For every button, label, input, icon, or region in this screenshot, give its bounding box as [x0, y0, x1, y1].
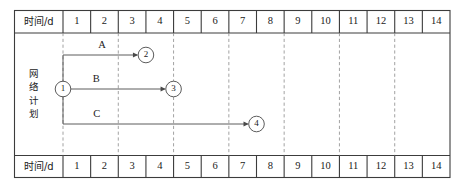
- node-1-label: 1: [61, 83, 66, 93]
- footer-day-8: 8: [268, 160, 273, 171]
- activity-c-label: C: [93, 108, 100, 119]
- footer-day-13: 13: [403, 160, 414, 171]
- node-2-label: 2: [144, 49, 149, 59]
- activity-a-arrowhead: [133, 52, 138, 57]
- header-day-1: 1: [74, 15, 79, 26]
- header-day-11: 11: [348, 15, 358, 26]
- node-3: 3: [166, 81, 182, 97]
- activity-arrows: ABC: [63, 39, 249, 127]
- header-day-8: 8: [268, 15, 273, 26]
- plan-title-char-1: 络: [29, 81, 39, 92]
- header-day-3: 3: [129, 15, 134, 26]
- header-day-13: 13: [403, 15, 414, 26]
- activity-b-label: B: [93, 73, 100, 84]
- network-plan-diagram: 时间/d1234567891011121314时间/d1234567891011…: [0, 0, 459, 183]
- footer-day-7: 7: [240, 160, 245, 171]
- activity-b-arrowhead: [161, 86, 166, 91]
- grid-layer: 时间/d1234567891011121314时间/d1234567891011…: [15, 11, 451, 178]
- footer-day-14: 14: [431, 160, 442, 171]
- node-2: 2: [138, 47, 154, 63]
- footer-day-1: 1: [74, 160, 79, 171]
- node-1: 1: [55, 81, 71, 97]
- activity-c-arrowhead: [244, 121, 249, 126]
- footer-day-5: 5: [185, 160, 190, 171]
- node-3-label: 3: [171, 83, 176, 93]
- header-day-14: 14: [431, 15, 442, 26]
- header-day-10: 10: [320, 15, 331, 26]
- header-day-7: 7: [240, 15, 245, 26]
- header-day-2: 2: [102, 15, 107, 26]
- header-day-6: 6: [212, 15, 217, 26]
- header-day-4: 4: [157, 15, 163, 26]
- text-labels: 网络计划: [29, 68, 39, 120]
- plan-title-char-2: 计: [29, 95, 39, 106]
- footer-day-11: 11: [348, 160, 358, 171]
- footer-time-axis-label: 时间/d: [24, 160, 54, 172]
- header-day-12: 12: [376, 15, 387, 26]
- table-outer-border: [15, 11, 451, 178]
- dashed-gridlines: [63, 33, 395, 156]
- footer-day-4: 4: [157, 160, 163, 171]
- node-4-label: 4: [254, 118, 259, 128]
- plan-title-char-0: 网: [29, 68, 39, 79]
- node-4: 4: [249, 116, 265, 132]
- footer-day-10: 10: [320, 160, 331, 171]
- footer-day-2: 2: [102, 160, 107, 171]
- header-day-9: 9: [295, 15, 300, 26]
- header-time-axis-label: 时间/d: [24, 15, 54, 27]
- plan-title-char-3: 划: [29, 108, 39, 119]
- footer-day-9: 9: [295, 160, 300, 171]
- footer-day-3: 3: [129, 160, 134, 171]
- diagram-canvas: 时间/d1234567891011121314时间/d1234567891011…: [0, 0, 459, 183]
- header-day-5: 5: [185, 15, 190, 26]
- footer-day-12: 12: [376, 160, 387, 171]
- activity-a-label: A: [98, 39, 106, 50]
- event-nodes: 1234: [55, 47, 264, 132]
- footer-day-6: 6: [212, 160, 217, 171]
